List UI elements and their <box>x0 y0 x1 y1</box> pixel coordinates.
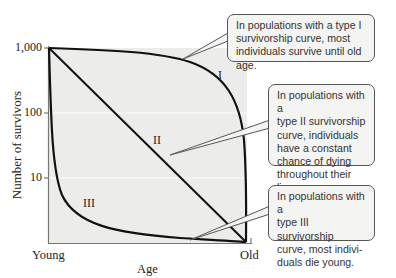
x-label-young: Young <box>32 248 65 263</box>
callout-1-line: survivorship curve, most <box>236 32 368 45</box>
callout-3-line: curve, most indivi- <box>277 243 368 256</box>
callout-2-line: type II survivorship <box>277 115 368 128</box>
survivorship-figure: 1,000 100 10 Number of survivors Young O… <box>0 0 396 278</box>
callout-type-3: In populations with a type III survivors… <box>268 185 375 241</box>
callout-type-2: In populations with a type II survivorsh… <box>268 84 375 166</box>
x-label-old: Old <box>240 248 259 263</box>
callout-type-1: In populations with a type I survivorshi… <box>227 14 375 62</box>
callout-3-line: duals die young. <box>277 256 368 269</box>
callout-1-line: individuals survive until old age. <box>236 45 368 71</box>
callout-1-line: In populations with a type I <box>236 19 368 32</box>
callout-2-line: curve, individuals <box>277 129 368 142</box>
callout-3-line: type III survivorship <box>277 216 368 242</box>
callout-2-line: In populations with a <box>277 89 368 115</box>
callout-2-line: chance of dying <box>277 155 368 168</box>
y-tick-label-1000: 1,000 <box>2 40 42 55</box>
curve-label-3: III <box>83 196 95 211</box>
y-axis-title: Number of survivors <box>9 80 25 210</box>
x-axis-title: Age <box>137 262 158 277</box>
callout-2-line: have a constant <box>277 142 368 155</box>
curve-label-2: II <box>153 133 161 148</box>
curve-label-1: I <box>218 68 222 83</box>
callout-3-line: In populations with a <box>277 190 368 216</box>
